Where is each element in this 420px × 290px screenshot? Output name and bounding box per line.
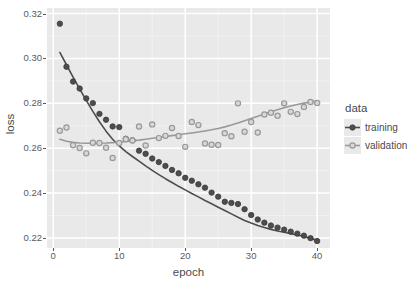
x-tick-label: 20 — [170, 251, 200, 261]
data-point — [229, 200, 234, 205]
data-point — [255, 217, 260, 222]
data-point — [64, 125, 69, 130]
x-tick-mark — [251, 248, 252, 251]
data-point — [308, 99, 313, 104]
y-tick-mark — [43, 103, 46, 104]
data-point — [255, 130, 260, 135]
legend-item-training[interactable]: training — [344, 119, 420, 136]
data-point — [196, 182, 201, 187]
data-point — [229, 134, 234, 139]
data-point — [202, 141, 207, 146]
data-point — [150, 122, 155, 127]
data-point — [176, 171, 181, 176]
y-axis-tick-labels: 0.220.240.260.280.300.32 — [12, 0, 42, 248]
x-tick-label: 40 — [302, 251, 332, 261]
data-point — [123, 137, 128, 142]
data-point — [183, 144, 188, 149]
data-point — [216, 142, 221, 147]
data-point — [189, 178, 194, 183]
data-point — [301, 104, 306, 109]
data-point — [275, 225, 280, 230]
data-point — [103, 145, 108, 150]
data-point — [70, 143, 75, 148]
y-tick-label: 0.26 — [15, 143, 42, 153]
data-point — [268, 223, 273, 228]
y-tick-label: 0.22 — [15, 233, 42, 243]
plot-svg — [47, 8, 330, 248]
x-tick-label: 10 — [104, 251, 134, 261]
data-point — [156, 159, 161, 164]
x-axis-tick-labels: 010203040 — [0, 251, 420, 265]
x-tick-label: 30 — [236, 251, 266, 261]
data-point — [117, 140, 122, 145]
data-point — [77, 86, 82, 91]
x-axis-title: epoch — [47, 266, 330, 278]
data-point — [235, 101, 240, 106]
data-point — [295, 231, 300, 236]
y-tick-mark — [43, 58, 46, 59]
y-tick-label: 0.32 — [15, 9, 42, 19]
data-point — [268, 110, 273, 115]
data-point — [249, 119, 254, 124]
legend: data trainingvalidation — [344, 102, 420, 155]
data-point — [189, 119, 194, 124]
data-point — [262, 112, 267, 117]
data-point — [301, 233, 306, 238]
data-point — [222, 199, 227, 204]
data-point — [143, 151, 148, 156]
data-point — [275, 113, 280, 118]
y-tick-mark — [43, 238, 46, 239]
x-tick-mark — [317, 248, 318, 251]
data-point — [215, 194, 220, 199]
legend-label: validation — [365, 140, 407, 151]
data-point — [103, 117, 108, 122]
legend-label: training — [365, 122, 398, 133]
data-point — [169, 167, 174, 172]
chart-container: loss 0.220.240.260.280.300.32 010203040 … — [0, 0, 420, 290]
data-point — [136, 148, 141, 153]
legend-item-validation[interactable]: validation — [344, 137, 420, 154]
data-point — [136, 124, 141, 129]
data-point — [262, 220, 267, 225]
data-point — [70, 79, 75, 84]
data-point — [196, 122, 201, 127]
data-point — [295, 111, 300, 116]
data-point — [64, 64, 69, 69]
data-point — [150, 156, 155, 161]
y-tick-label: 0.28 — [15, 98, 42, 108]
data-point — [315, 100, 320, 105]
data-point — [97, 140, 102, 145]
data-point — [57, 21, 62, 26]
legend-entries: trainingvalidation — [344, 119, 420, 154]
data-point — [110, 124, 115, 129]
data-point — [222, 131, 227, 136]
data-point — [90, 100, 95, 105]
data-point — [156, 135, 161, 140]
data-point — [84, 151, 89, 156]
data-point — [163, 133, 168, 138]
data-point — [209, 142, 214, 147]
data-point — [288, 109, 293, 114]
data-point — [163, 163, 168, 168]
data-point — [308, 235, 313, 240]
data-point — [314, 238, 319, 243]
y-tick-label: 0.24 — [15, 188, 42, 198]
data-point — [77, 145, 82, 150]
x-tick-mark — [185, 248, 186, 251]
y-tick-mark — [43, 148, 46, 149]
data-point — [97, 111, 102, 116]
data-point — [282, 101, 287, 106]
legend-title: data — [344, 102, 420, 114]
data-point — [288, 229, 293, 234]
data-point — [130, 138, 135, 143]
legend-key-open-circle — [344, 137, 361, 154]
data-point — [57, 128, 62, 133]
data-point — [176, 133, 181, 138]
legend-key-filled-circle — [344, 119, 361, 136]
data-point — [110, 155, 115, 160]
x-tick-mark — [119, 248, 120, 251]
data-point — [117, 124, 122, 129]
data-point — [90, 140, 95, 145]
data-point — [242, 206, 247, 211]
y-tick-label: 0.30 — [15, 53, 42, 63]
